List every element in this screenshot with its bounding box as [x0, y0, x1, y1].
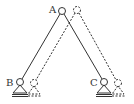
hinge-a-icon: [59, 8, 66, 15]
member-ac: [64, 14, 102, 79]
pin-support-c-icon: [96, 79, 112, 97]
label-a: A: [48, 4, 57, 15]
label-b: B: [6, 77, 13, 88]
label-c: C: [90, 77, 98, 88]
member-ab: [22, 14, 60, 79]
displaced-shape: [28, 7, 126, 97]
frame-diagram: A B C: [0, 0, 134, 104]
diagram-canvas: A B C: [0, 0, 134, 104]
pin-support-b-icon: [12, 79, 28, 97]
